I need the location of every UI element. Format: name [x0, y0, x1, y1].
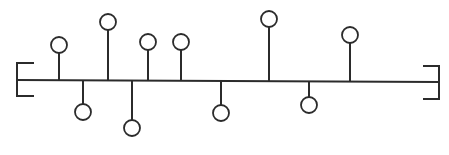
pendant-node-up: [51, 37, 67, 80]
pendant-node-up: [261, 11, 277, 81]
node-circle: [75, 104, 91, 120]
node-circle: [51, 37, 67, 53]
pendant-node-up: [342, 27, 358, 82]
pendant-node-up: [173, 34, 189, 81]
node-circle: [173, 34, 189, 50]
chain-diagram: [0, 0, 449, 155]
pendant-node-up: [100, 14, 116, 80]
pendant-node-down: [124, 81, 140, 136]
pendant-node-down: [301, 81, 317, 113]
pendant-node-up: [140, 34, 156, 81]
node-circle: [213, 105, 229, 121]
node-circle: [140, 34, 156, 50]
node-circle: [261, 11, 277, 27]
pendant-node-down: [213, 81, 229, 121]
node-circle: [301, 97, 317, 113]
backbone-line: [17, 80, 439, 82]
node-circle: [100, 14, 116, 30]
pendant-node-down: [75, 80, 91, 120]
node-circle: [342, 27, 358, 43]
node-circle: [124, 120, 140, 136]
